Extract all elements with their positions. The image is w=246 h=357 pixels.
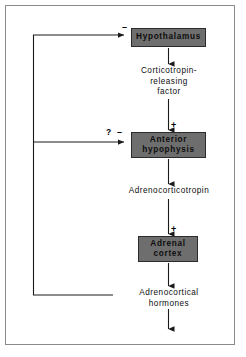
node-anterior-hypophysis: Anterior hypophysis [131, 132, 206, 158]
minus-sign-hypothalamus: – [122, 23, 127, 32]
question-mark-anterior-hypophysis: ? [106, 128, 111, 137]
node-anterior-hypophysis-label: Anterior hypophysis [142, 135, 195, 156]
minus-sign-anterior-hypophysis: – [117, 128, 122, 137]
node-hypothalamus-label: Hypothalamus [136, 32, 201, 43]
label-corticotropin-releasing-factor: Corticotropin- releasing factor [113, 66, 225, 98]
label-adrenocorticotropin: Adrenocorticotropin [103, 186, 235, 197]
plus-sign-adrenal-cortex: + [171, 225, 176, 234]
feedback-loop-to-hypothalamus [34, 35, 125, 295]
figure-container: Hypothalamus Anterior hypophysis Adrenal… [0, 0, 246, 357]
label-adrenocortical-hormones: Adrenocortical hormones [113, 288, 225, 309]
node-hypothalamus: Hypothalamus [131, 28, 206, 47]
plus-sign-anterior-hypophysis: + [171, 121, 176, 130]
node-adrenal-cortex: Adrenal cortex [138, 236, 198, 262]
node-adrenal-cortex-label: Adrenal cortex [150, 239, 185, 260]
